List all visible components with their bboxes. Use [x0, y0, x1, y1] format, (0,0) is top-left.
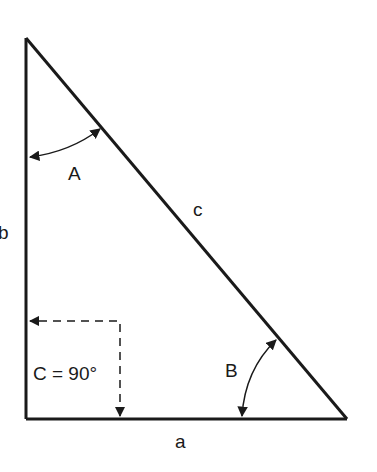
angle-b-arc: [242, 340, 276, 416]
angle-a-label: A: [68, 163, 81, 184]
angle-a-arc: [30, 129, 100, 157]
side-a-label: a: [175, 431, 186, 452]
side-c-line: [26, 38, 347, 419]
side-b-label: b: [0, 222, 9, 243]
side-c-label: c: [193, 199, 203, 220]
right-triangle-diagram: A B C = 90° a b c: [0, 0, 377, 472]
angle-c-label: C = 90°: [33, 363, 97, 384]
angle-b-label: B: [225, 360, 238, 381]
